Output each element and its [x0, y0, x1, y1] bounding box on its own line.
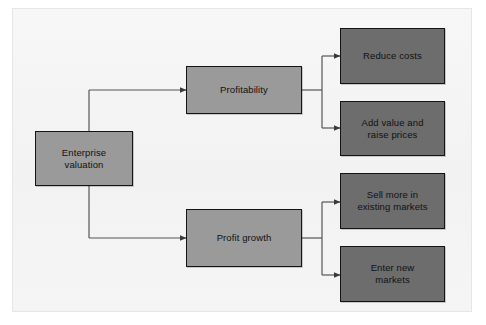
edge-profit-growth-to-enter-new-markets: [322, 238, 340, 275]
node-reduce-costs-label: Reduce costs: [359, 50, 426, 62]
node-profit-growth[interactable]: Profit growth: [186, 209, 302, 267]
edge-profitability-to-reduce-costs: [302, 56, 340, 90]
node-add-value-raise-prices-label: Add value and raise prices: [357, 117, 427, 140]
edge-profit-growth-to-sell-more: [302, 202, 340, 238]
diagram-canvas: Enterprise valuation Profitability Profi…: [0, 0, 486, 325]
node-enterprise-valuation[interactable]: Enterprise valuation: [35, 131, 133, 186]
node-sell-more-existing-markets-label: Sell more in existing markets: [353, 189, 431, 212]
edge-profitability-to-add-value: [322, 90, 340, 128]
node-enterprise-valuation-label: Enterprise valuation: [58, 147, 110, 170]
node-profitability[interactable]: Profitability: [186, 66, 302, 114]
node-add-value-raise-prices[interactable]: Add value and raise prices: [340, 101, 445, 156]
node-reduce-costs[interactable]: Reduce costs: [340, 28, 445, 84]
node-profitability-label: Profitability: [216, 84, 272, 96]
node-sell-more-existing-markets[interactable]: Sell more in existing markets: [340, 173, 445, 229]
node-profit-growth-label: Profit growth: [213, 232, 276, 244]
node-enter-new-markets[interactable]: Enter new markets: [340, 246, 445, 302]
node-enter-new-markets-label: Enter new markets: [367, 262, 419, 285]
